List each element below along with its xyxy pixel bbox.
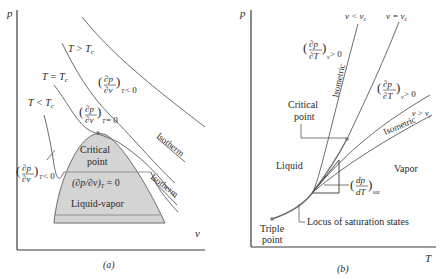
svg-text:> 0: > 0 — [330, 49, 342, 59]
triple-point-label-line1: Triple — [260, 223, 285, 234]
label-v-greater: v > vc — [412, 109, 432, 119]
caption-b: (b) — [337, 263, 349, 275]
svg-text:): ) — [116, 74, 120, 89]
panel-a-pv-diagram: p v (a) T > Tc T = Tc T < Tc ( ∂p ∂v ) T… — [6, 7, 205, 271]
saturation-curve — [272, 139, 347, 219]
triple-point-marker — [270, 217, 274, 221]
dome-region-label: Liquid-vapor — [71, 198, 124, 209]
label-t-greater: T > Tc — [68, 43, 95, 56]
critical-point-label-line2: point — [294, 111, 315, 122]
svg-text:> 0: > 0 — [404, 89, 416, 99]
svg-text:∂p: ∂p — [309, 39, 318, 49]
liquid-label: Liquid — [276, 160, 303, 171]
dome-critical-line1: Critical — [80, 144, 110, 155]
svg-text:): ) — [322, 40, 326, 55]
svg-text:∂T: ∂T — [309, 51, 319, 61]
svg-text:(: ( — [350, 177, 354, 192]
isotherm-tag-upper: Isotherm — [155, 131, 186, 159]
svg-text:∂v: ∂v — [104, 85, 112, 95]
dome-critical-line2: point — [87, 156, 108, 167]
svg-text:= 0: = 0 — [106, 115, 118, 125]
svg-text:): ) — [396, 80, 400, 95]
triple-point-label-line2: point — [262, 234, 283, 245]
svg-text:): ) — [368, 177, 372, 192]
svg-text:): ) — [97, 104, 101, 119]
derivative-dpdt-upper: ( ∂p ∂T ) v > 0 — [303, 39, 342, 61]
svg-text:∂p: ∂p — [85, 104, 94, 114]
svg-text:dp: dp — [356, 175, 366, 185]
leader-t-less — [47, 150, 55, 160]
svg-text:∂p: ∂p — [104, 74, 113, 84]
dome-inline-derivative: (∂p/∂v)T = 0 — [72, 177, 120, 189]
svg-text:(: ( — [98, 74, 102, 89]
isometric-v-greater-2 — [313, 115, 432, 192]
svg-text:(: ( — [16, 163, 20, 178]
derivative-neg-upper: ( ∂p ∂v ) T < 0 — [98, 74, 137, 95]
leader-critical-point — [301, 124, 346, 138]
svg-text:∂T: ∂T — [383, 91, 393, 101]
svg-text:∂p: ∂p — [22, 163, 31, 173]
isotherm-tag-lower: Isotherm — [149, 172, 180, 200]
slope-triangle — [312, 160, 339, 193]
label-v-less: v < vc — [345, 11, 367, 22]
label-t-equal: T = Tc — [42, 71, 69, 84]
thermo-diagrams: p v (a) T > Tc T = Tc T < Tc ( ∂p ∂v ) T… — [0, 0, 442, 278]
svg-text:(: ( — [377, 80, 381, 95]
t-axis-label: T — [425, 252, 432, 264]
derivative-neg-left: ( ∂p ∂v ) T < 0 — [16, 163, 55, 184]
caption-a: (a) — [103, 259, 115, 271]
p-axis-label-a: p — [6, 7, 13, 19]
label-t-less: T < Tc — [28, 97, 55, 110]
svg-text:(: ( — [303, 40, 307, 55]
locus-label: Locus of saturation states — [307, 216, 409, 227]
svg-text:∂v: ∂v — [22, 174, 30, 184]
svg-text:sat: sat — [373, 189, 380, 195]
svg-text:(: ( — [79, 104, 83, 119]
derivative-zero: ( ∂p ∂v ) T = 0 — [79, 104, 118, 125]
vapor-label: Vapor — [394, 163, 419, 174]
derivative-dpdt-sat: ( dp dT ) sat — [350, 175, 380, 197]
derivative-dpdt-right: ( ∂p ∂T ) v > 0 — [377, 79, 416, 101]
isometric-tag-upper: Isometric — [330, 63, 347, 98]
panel-b-pt-diagram: p T (b) v < vc v = vc v > vc ( ∂p ∂T ) v… — [239, 7, 436, 275]
isotherm-t-less — [44, 115, 64, 178]
svg-text:< 0: < 0 — [43, 171, 55, 181]
leader-locus — [299, 204, 305, 222]
svg-text:): ) — [34, 163, 38, 178]
svg-text:dT: dT — [356, 187, 367, 197]
svg-text:< 0: < 0 — [125, 85, 137, 95]
svg-text:∂v: ∂v — [85, 115, 93, 125]
critical-point-label-line1: Critical — [288, 99, 318, 110]
v-axis-label: v — [195, 227, 200, 239]
p-axis-label-b: p — [239, 7, 246, 19]
label-v-equal: v = vc — [386, 11, 408, 22]
svg-text:∂p: ∂p — [383, 79, 392, 89]
